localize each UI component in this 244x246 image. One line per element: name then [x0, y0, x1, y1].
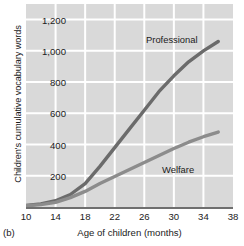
x-tick-label: 26 [131, 210, 157, 223]
y-tick-label: 400 [30, 139, 66, 150]
x-axis-title: Age of children (months) [26, 226, 233, 239]
y-axis-title: Children's cumulative vocabulary words [10, 4, 26, 204]
x-tick-label: 34 [190, 210, 216, 223]
panel-label: (b) [3, 226, 15, 239]
y-tick-label: 1,200 [30, 14, 66, 25]
x-axis-line [26, 207, 233, 209]
series-annotation-welfare: Welfare [162, 164, 194, 175]
x-tick-label: 38 [220, 210, 244, 223]
x-tick-label: 22 [102, 210, 128, 223]
x-tick-label: 10 [13, 210, 39, 223]
y-tick-label: 1,000 [30, 45, 66, 56]
plot-area: Professional Welfare 2004006008001,0001,… [26, 4, 233, 207]
x-tick-label: 14 [43, 210, 69, 223]
series-annotation-professional: Professional [146, 34, 198, 45]
x-tick-label: 18 [72, 210, 98, 223]
y-tick-label: 200 [30, 170, 66, 181]
y-tick-label: 600 [30, 108, 66, 119]
figure-panel-b: Children's cumulative vocabulary words P… [0, 0, 244, 246]
y-tick-label: 800 [30, 77, 66, 88]
x-tick-label: 30 [161, 210, 187, 223]
